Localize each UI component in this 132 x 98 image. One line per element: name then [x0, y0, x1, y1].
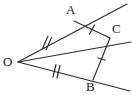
- point-label-A: A: [66, 3, 75, 16]
- tick-mark-OB: [53, 65, 60, 79]
- tick-mark-CA: [90, 25, 95, 34]
- point-label-B: B: [86, 80, 95, 93]
- ray-OB: [18, 62, 130, 91]
- point-label-O: O: [3, 55, 12, 68]
- geometry-figure: O A B C: [0, 0, 132, 98]
- point-label-C: C: [112, 22, 121, 35]
- ray-OC: [18, 42, 131, 62]
